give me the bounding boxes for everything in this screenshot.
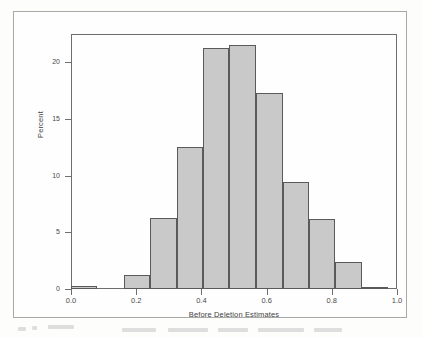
x-tick-mark: [201, 289, 202, 295]
scanned-page: Percent 05101520 0.00.20.40.60.81.0 Befo…: [0, 0, 423, 338]
y-tick-label: 5: [36, 228, 60, 235]
x-tick-mark: [267, 289, 268, 295]
figure-frame: Percent 05101520 0.00.20.40.60.81.0 Befo…: [13, 11, 407, 318]
x-tick-mark: [136, 289, 137, 295]
y-tick-label: 10: [36, 172, 60, 179]
x-tick-label: 0.2: [121, 297, 151, 305]
y-tick-label: 0: [36, 285, 60, 292]
x-tick-label: 0.8: [317, 297, 347, 305]
x-tick-mark: [397, 289, 398, 295]
x-tick-mark: [332, 289, 333, 295]
x-tick-label: 0.6: [252, 297, 282, 305]
x-tick-label: 0.4: [186, 297, 216, 305]
x-axis-label: Before Deletion Estimates: [71, 310, 397, 319]
x-tick-label: 1.0: [382, 297, 412, 305]
scan-artifact-smudges: [18, 325, 408, 335]
y-tick-label: 15: [36, 115, 60, 122]
y-tick-label: 20: [36, 58, 60, 65]
plot-area: [71, 34, 397, 289]
x-tick-mark: [71, 289, 72, 295]
x-tick-label: 0.0: [56, 297, 86, 305]
